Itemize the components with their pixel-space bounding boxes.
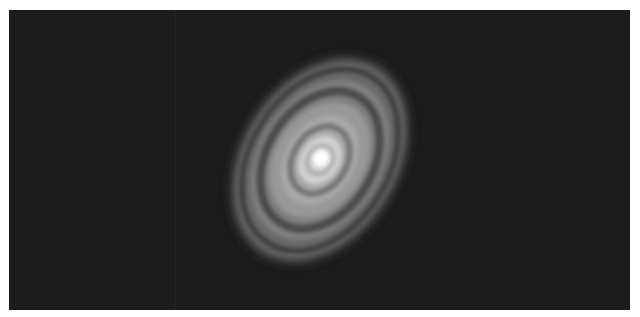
disk-graphic — [9, 10, 630, 310]
image-frame — [9, 10, 630, 310]
